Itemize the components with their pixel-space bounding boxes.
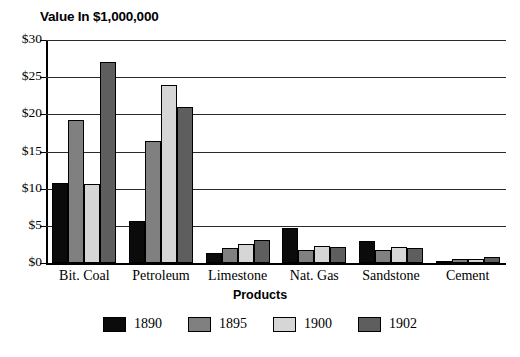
legend-label-1895: 1895 [219,316,247,332]
bar-group [206,40,270,263]
bar-nat-gas-1900 [314,246,330,263]
x-tick-label: Petroleum [123,268,200,284]
y-tick-label: $0 [0,254,42,270]
bar-bit-coal-1900 [84,184,100,263]
bar-bit-coal-1902 [100,62,116,263]
bar-petroleum-1890 [129,221,145,263]
legend-swatch-1895 [188,317,211,332]
legend-item-1895[interactable]: 1895 [188,316,247,332]
bar-limestone-1895 [222,248,238,263]
legend-item-1902[interactable]: 1902 [358,316,417,332]
legend-item-1900[interactable]: 1900 [273,316,332,332]
y-axis: $0$5$10$15$20$25$30 [0,40,42,263]
bar-sandstone-1890 [359,241,375,263]
legend-item-1890[interactable]: 1890 [103,316,162,332]
bar-group [129,40,193,263]
x-tick-label: Bit. Coal [46,268,123,284]
x-tick-label: Sandstone [353,268,430,284]
legend-label-1900: 1900 [304,316,332,332]
bar-nat-gas-1890 [282,228,298,263]
x-tick-label: Nat. Gas [276,268,353,284]
x-axis-title: Products [0,288,520,302]
legend-swatch-1902 [358,317,381,332]
bar-cement-1895 [452,259,468,263]
bar-group [282,40,346,263]
bar-sandstone-1895 [375,250,391,263]
bar-bit-coal-1890 [52,183,68,263]
bar-limestone-1902 [254,240,270,263]
bar-group [52,40,116,263]
y-tick-label: $25 [0,68,42,84]
chart-title: Value In $1,000,000 [40,9,159,24]
y-tick-label: $20 [0,105,42,121]
legend-swatch-1890 [103,317,126,332]
bar-sandstone-1900 [391,247,407,263]
bar-sandstone-1902 [407,248,423,263]
plot-area [46,40,506,263]
bar-bit-coal-1895 [68,120,84,263]
bar-petroleum-1895 [145,141,161,263]
bar-limestone-1900 [238,244,254,263]
bar-petroleum-1900 [161,85,177,263]
bar-cement-1902 [484,257,500,263]
bar-cement-1890 [436,261,452,264]
bar-petroleum-1902 [177,107,193,263]
x-tick-label: Cement [429,268,506,284]
bar-group [359,40,423,263]
bar-chart: Value In $1,000,000 $0$5$10$15$20$25$30 … [0,0,520,357]
y-tick-label: $5 [0,217,42,233]
chart-legend: 1890189519001902 [0,316,520,332]
bar-nat-gas-1902 [330,247,346,263]
legend-label-1890: 1890 [134,316,162,332]
x-tick-label: Limestone [199,268,276,284]
y-tick-label: $30 [0,31,42,47]
bar-group [436,40,500,263]
y-tick-label: $15 [0,143,42,159]
bar-cement-1900 [468,259,484,263]
bar-limestone-1890 [206,253,222,263]
x-axis-line [46,263,506,265]
legend-swatch-1900 [273,317,296,332]
bar-nat-gas-1895 [298,250,314,263]
legend-label-1902: 1902 [389,316,417,332]
y-tick-label: $10 [0,180,42,196]
